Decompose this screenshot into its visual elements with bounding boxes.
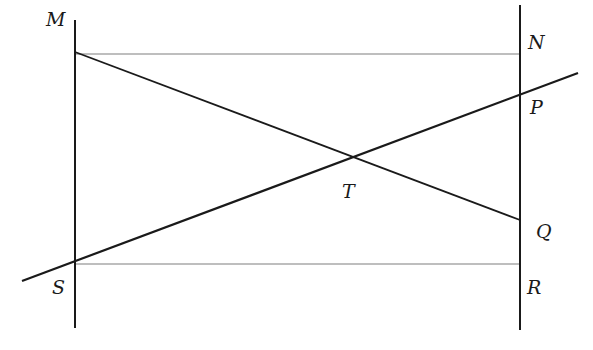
geometry-diagram: M N P T Q S R [0, 0, 593, 350]
line-SP [22, 73, 578, 281]
label-T: T [342, 180, 356, 202]
label-Q: Q [536, 220, 552, 242]
label-R: R [526, 276, 541, 298]
label-S: S [52, 276, 65, 298]
segment-MQ [75, 52, 520, 220]
label-N: N [527, 31, 546, 53]
label-M: M [45, 8, 66, 30]
label-P: P [529, 96, 544, 118]
